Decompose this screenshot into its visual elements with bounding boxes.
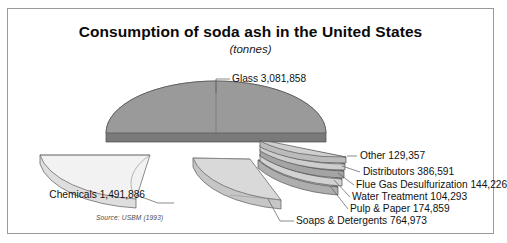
chart-frame: Consumption of soda ash in the United St… [7, 8, 494, 234]
label-soaps-detergents: Soaps & Detergents 764,973 [296, 215, 427, 226]
label-pulp-paper: Pulp & Paper 174,859 [350, 203, 450, 214]
label-other: Other 129,357 [360, 150, 425, 161]
label-glass: Glass 3,081,858 [232, 73, 306, 84]
label-chemicals: Chemicals 1,491,886 [49, 189, 145, 200]
source-note: Source: USBM (1993) [96, 214, 163, 221]
slice-chemicals[interactable] [40, 155, 150, 208]
label-distributors: Distributors 386,591 [363, 166, 454, 177]
label-water-treatment: Water Treatment 104,293 [352, 191, 467, 202]
label-flue-gas-desulfurization: Flue Gas Desulfurization 144,226 [356, 179, 507, 190]
